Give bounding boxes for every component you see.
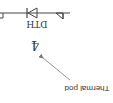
annotation-label: Thermal pod <box>65 84 110 93</box>
arrow-icon <box>43 58 70 80</box>
pin-number: 4 <box>31 38 39 53</box>
component-label: DTH <box>26 19 47 29</box>
terminal-marker-left <box>0 13 3 18</box>
ground-triangle-icon <box>56 13 63 19</box>
schematic-diagram: DTH 4 Thermal pod <box>0 0 113 103</box>
